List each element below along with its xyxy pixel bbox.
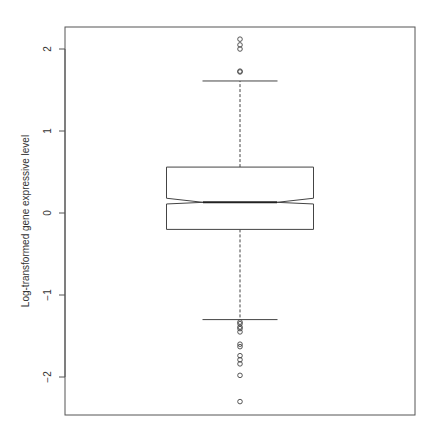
outlier-point [238, 373, 243, 378]
y-tick-label: −1 [42, 289, 53, 301]
notched-box [167, 167, 314, 229]
outlier-point [238, 399, 243, 404]
y-tick-label: 1 [42, 128, 53, 134]
y-tick-label: 0 [42, 210, 53, 216]
outlier-point [238, 330, 243, 335]
box [167, 37, 314, 404]
outlier-point [238, 37, 243, 42]
y-tick-label: 2 [42, 46, 53, 52]
y-axis-label: Log-transformed gene expressive level [20, 135, 31, 307]
boxplot-chart: −2−1012 Log-transformed gene expressive … [0, 0, 437, 437]
y-tick-label: −2 [42, 371, 53, 383]
y-axis: −2−1012 [42, 46, 65, 383]
